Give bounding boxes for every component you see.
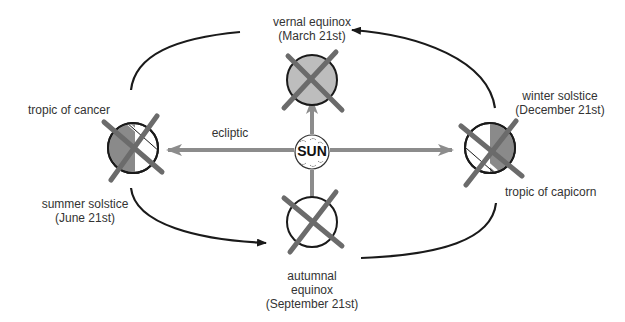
winter-solstice-label: winter solstice (December 21st)	[500, 89, 620, 117]
vernal-line2: (March 21st)	[252, 29, 372, 43]
orbit-arc-top-left	[131, 32, 240, 90]
summer-solstice-label: summer solstice (June 21st)	[30, 197, 140, 225]
orbit-arc-bottom-right	[361, 203, 496, 258]
globe-autumnal-equinox	[284, 192, 342, 252]
winter-line2: (December 21st)	[500, 103, 620, 117]
globe-winter-solstice	[461, 120, 525, 185]
autumnal-equinox-label: autumnal equinox (September 21st)	[252, 269, 372, 311]
tropic-of-capicorn-label: tropic of capicorn	[505, 185, 625, 199]
ecliptic-label: ecliptic	[200, 126, 260, 140]
summer-line2: (June 21st)	[30, 211, 140, 225]
globe-vernal-equinox	[284, 52, 342, 110]
tropic-of-cancer-label: tropic of cancer	[28, 103, 138, 117]
orbit-arc-top-right	[352, 30, 495, 108]
autumnal-line1: autumnal	[252, 269, 372, 283]
orbit-arc-bottom-left	[131, 188, 266, 243]
autumnal-line3: (September 21st)	[252, 297, 372, 311]
globe-summer-solstice	[100, 116, 162, 180]
winter-line1: winter solstice	[500, 89, 620, 103]
vernal-equinox-label: vernal equinox (March 21st)	[252, 15, 372, 43]
orbit-diagram: SUN ecliptic vernal equinox (March 21st)…	[0, 0, 625, 322]
vernal-line1: vernal equinox	[252, 15, 372, 29]
autumnal-line2: equinox	[252, 283, 372, 297]
sun-label: SUN	[292, 144, 332, 158]
summer-line1: summer solstice	[30, 197, 140, 211]
